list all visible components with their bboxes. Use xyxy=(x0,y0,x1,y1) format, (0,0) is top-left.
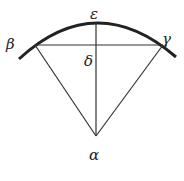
line-gamma-alpha xyxy=(96,45,163,136)
label-alpha: α xyxy=(89,146,99,164)
label-gamma: γ xyxy=(162,30,171,48)
label-epsilon: ε xyxy=(90,5,98,23)
label-beta: β xyxy=(5,35,15,53)
arc xyxy=(19,23,176,59)
label-delta: δ xyxy=(84,52,93,70)
geometry-diagram: ε β γ δ α xyxy=(0,0,184,181)
